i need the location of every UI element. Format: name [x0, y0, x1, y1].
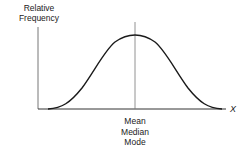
x-axis-label: X [230, 104, 236, 114]
center-labels: Mean Median Mode [110, 116, 160, 148]
normal-distribution-diagram: Relative Frequency X Mean Median Mode [0, 0, 249, 154]
mean-label: Mean [110, 116, 160, 127]
median-label: Median [110, 127, 160, 138]
mode-label: Mode [110, 137, 160, 148]
